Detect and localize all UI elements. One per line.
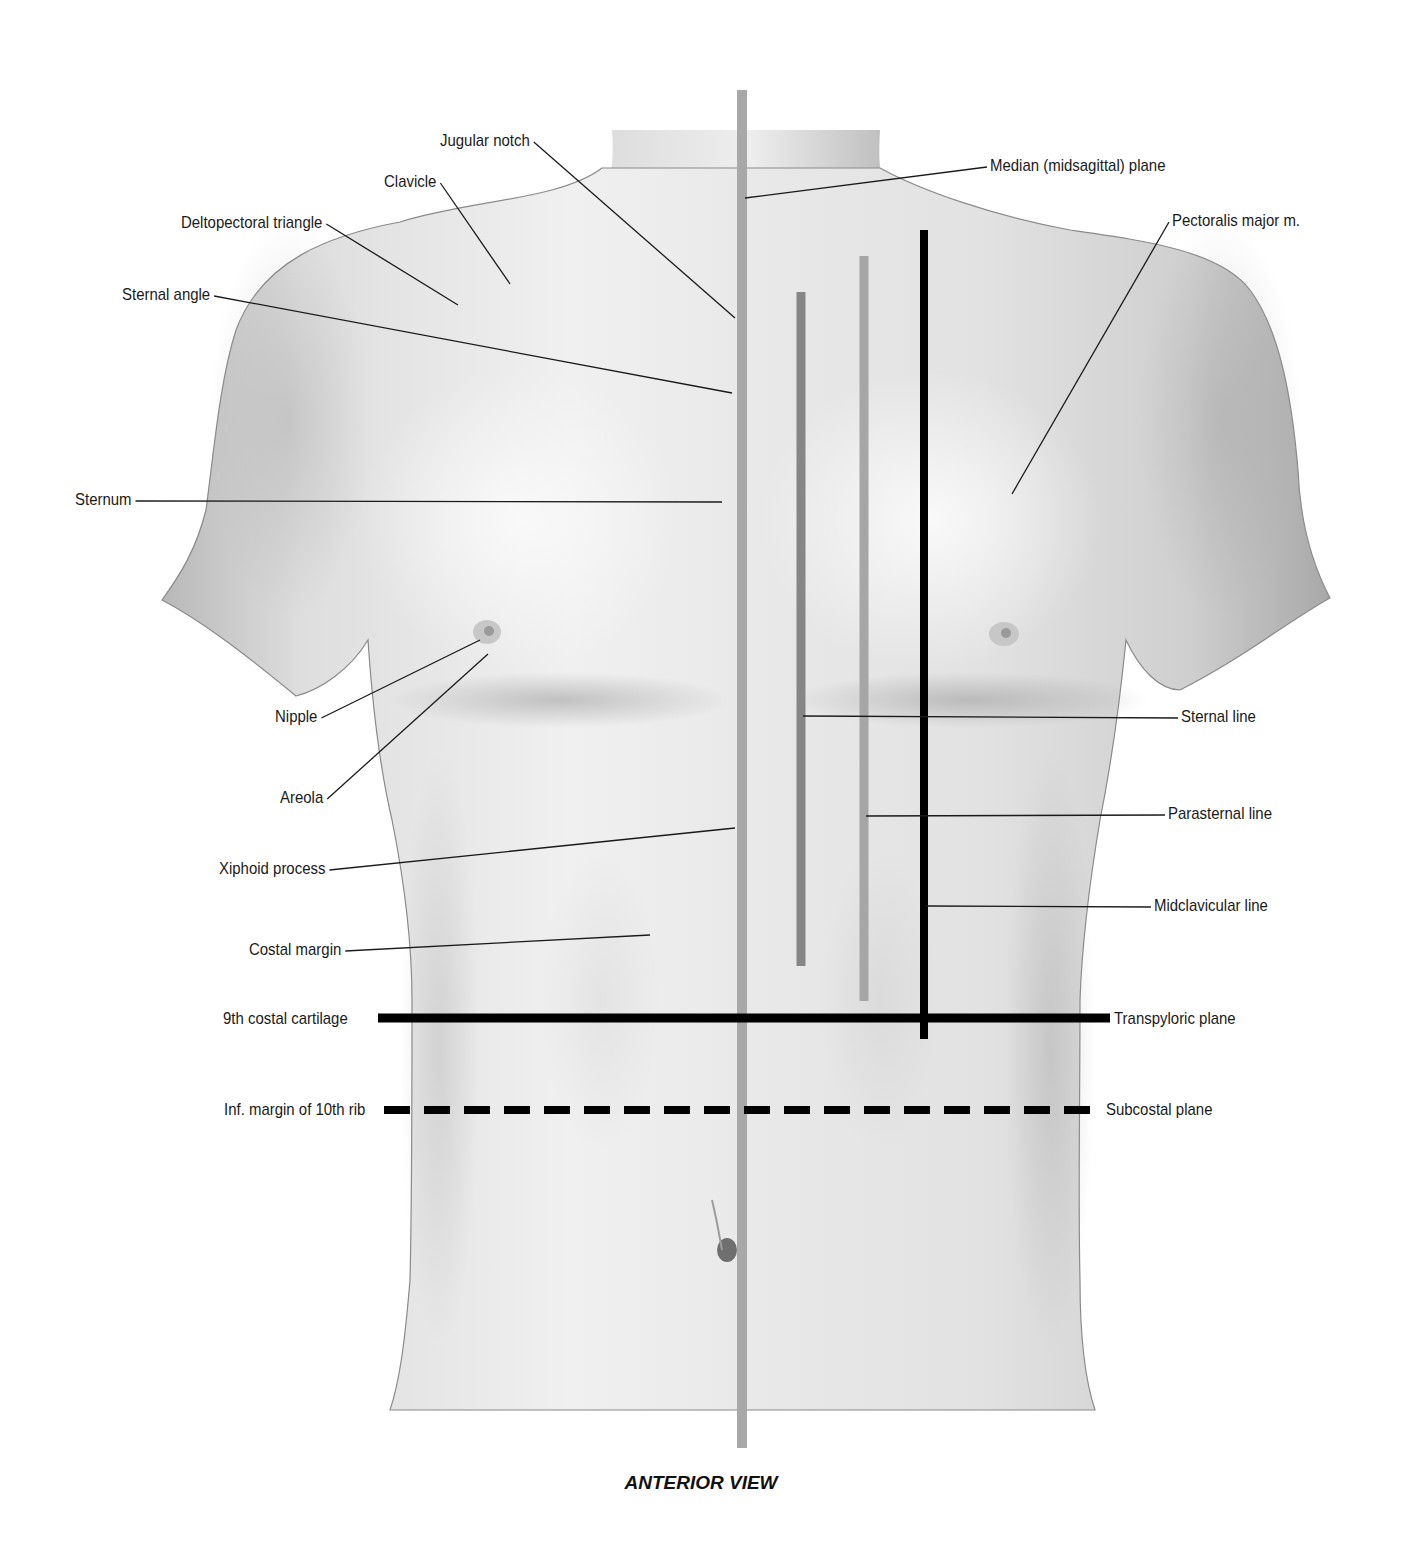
nipple-left-icon bbox=[473, 620, 501, 644]
label-xiphoid-process: Xiphoid process bbox=[219, 859, 325, 879]
label-sternal-line: Sternal line bbox=[1181, 707, 1256, 727]
label-pectoralis-major: Pectoralis major m. bbox=[1172, 211, 1300, 231]
nipple-right-icon bbox=[989, 622, 1019, 646]
label-jugular-notch: Jugular notch bbox=[440, 131, 530, 151]
label-areola: Areola bbox=[280, 788, 323, 808]
label-nipple: Nipple bbox=[275, 707, 317, 727]
label-transpyloric-plane: Transpyloric plane bbox=[1114, 1009, 1236, 1029]
label-deltopectoral-triangle: Deltopectoral triangle bbox=[181, 213, 322, 233]
label-inf-margin-10th-rib: Inf. margin of 10th rib bbox=[224, 1100, 365, 1120]
label-9th-costal-cartilage: 9th costal cartilage bbox=[223, 1009, 348, 1029]
label-sternum: Sternum bbox=[75, 490, 132, 510]
label-clavicle: Clavicle bbox=[384, 172, 436, 192]
figure-caption: ANTERIOR VIEW bbox=[0, 1472, 1402, 1494]
label-sternal-angle: Sternal angle bbox=[122, 285, 210, 305]
label-costal-margin: Costal margin bbox=[249, 940, 341, 960]
label-parasternal-line: Parasternal line bbox=[1168, 804, 1272, 824]
label-median-plane: Median (midsagittal) plane bbox=[990, 156, 1165, 176]
label-subcostal-plane: Subcostal plane bbox=[1106, 1100, 1212, 1120]
label-midclavicular-line: Midclavicular line bbox=[1154, 896, 1268, 916]
anatomy-figure: Jugular notchClavicleDeltopectoral trian… bbox=[0, 0, 1402, 1548]
